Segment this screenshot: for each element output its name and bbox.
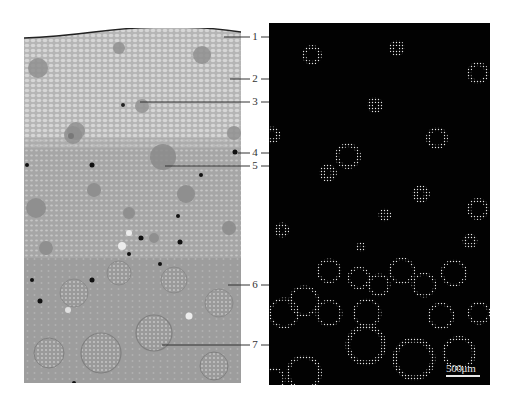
label-7: 7 bbox=[250, 339, 260, 350]
label-5: 5 bbox=[250, 160, 260, 171]
label-4: 4 bbox=[250, 147, 260, 158]
brightfield-micrograph bbox=[24, 28, 241, 383]
label-1-epidermis: 1 bbox=[250, 31, 260, 42]
label-3: 3 bbox=[250, 96, 260, 107]
label-2: 2 bbox=[250, 73, 260, 84]
figure: 1 2 3 4 5 6 7 500μm bbox=[0, 0, 510, 402]
brightfield-texture bbox=[24, 28, 241, 383]
label-6: 6 bbox=[250, 279, 260, 290]
fluorescence-micrograph bbox=[269, 23, 490, 385]
fluorescence-rings bbox=[269, 23, 490, 385]
scale-bar-label: 500μm bbox=[446, 362, 475, 374]
scale-bar bbox=[446, 375, 480, 377]
